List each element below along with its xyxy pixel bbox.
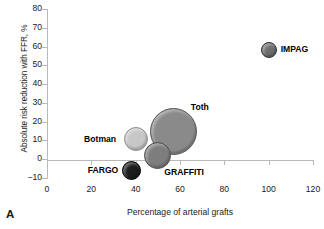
y-tick-label: 80 xyxy=(16,4,42,13)
y-tick-label-wrap: 0 xyxy=(8,154,42,164)
data-bubble-impag xyxy=(261,42,277,58)
x-tick-label: 60 xyxy=(166,185,194,194)
x-tick-label: 100 xyxy=(255,185,283,194)
data-bubble-botman xyxy=(124,127,148,151)
y-tick-label: 50 xyxy=(16,60,42,69)
y-tick-label: 70 xyxy=(16,23,42,32)
y-tick-label-wrap: 40 xyxy=(8,79,42,89)
panel-letter: A xyxy=(6,208,14,220)
y-tick-label: 40 xyxy=(16,79,42,88)
y-tick-label-wrap: −10 xyxy=(8,173,42,183)
data-label-graffiti: GRAFFITI xyxy=(164,168,204,177)
y-tick-label: 0 xyxy=(16,154,42,163)
x-tick-mark xyxy=(313,160,314,165)
x-axis-label: Percentage of arterial grafts xyxy=(47,207,313,217)
y-tick-label-wrap: 70 xyxy=(8,23,42,33)
x-tick-label: 0 xyxy=(33,185,61,194)
data-label-fargo: FARGO xyxy=(88,166,119,175)
y-tick-label: 30 xyxy=(16,98,42,107)
x-tick-label: 20 xyxy=(77,185,105,194)
y-tick-label-wrap: 10 xyxy=(8,135,42,145)
y-tick-label-wrap: 80 xyxy=(8,4,42,14)
x-tick-label: 120 xyxy=(299,185,324,194)
y-tick-label: 20 xyxy=(16,117,42,126)
y-tick-label: −10 xyxy=(16,173,42,182)
data-label-botman: Botman xyxy=(84,135,116,144)
bubble-chart-panel-a: Absolute risk reduction with FFR, % Perc… xyxy=(0,0,324,229)
x-tick-label: 80 xyxy=(210,185,238,194)
data-bubble-fargo xyxy=(122,161,141,180)
x-tick-label: 40 xyxy=(122,185,150,194)
y-tick-label-wrap: 30 xyxy=(8,98,42,108)
data-label-impag: IMPAG xyxy=(281,45,309,54)
y-tick-mark xyxy=(42,178,47,179)
y-tick-label: 10 xyxy=(16,135,42,144)
y-tick-label: 60 xyxy=(16,42,42,51)
y-tick-label-wrap: 60 xyxy=(8,42,42,52)
data-label-toth: Toth xyxy=(191,103,209,112)
y-tick-label-wrap: 50 xyxy=(8,60,42,70)
y-tick-label-wrap: 20 xyxy=(8,117,42,127)
